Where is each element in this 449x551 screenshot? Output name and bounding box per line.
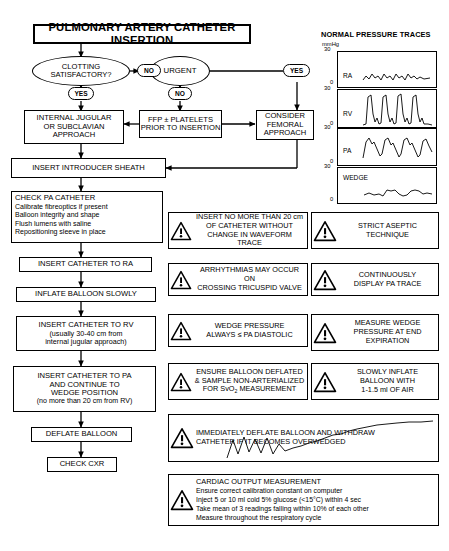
ra-axis-max: 30 bbox=[324, 46, 330, 52]
warning-triangle-icon bbox=[170, 372, 192, 392]
warning-wedge-pressure: WEDGE PRESSURE ALWAYS ≤ PA DIASTOLIC bbox=[168, 314, 308, 347]
cardiac-output-heading: CARDIAC OUTPUT MEASUREMENT bbox=[196, 477, 436, 487]
pressure-traces-title: NORMAL PRESSURE TRACES bbox=[321, 30, 449, 39]
svo2-line: FOR SvO2 MEASUREMENT bbox=[203, 384, 296, 393]
trace-waveform-pa bbox=[362, 132, 434, 164]
warning-triangle-icon bbox=[170, 427, 194, 449]
edge-label-clotting-no: NO bbox=[137, 64, 161, 77]
trace-waveform-ra bbox=[362, 54, 434, 87]
decision-clotting: CLOTTING SATISFACTORY? bbox=[32, 56, 130, 86]
flow-box-insert-introducer-sheath: INSERT INTRODUCER SHEATH bbox=[11, 158, 166, 178]
warning-insert-no-more-20cm: INSERT NO MORE THAN 20 cm OF CATHETER WI… bbox=[168, 212, 308, 249]
trace-label-ra: RA bbox=[343, 72, 352, 79]
check-pa-catheter-box: CHECK PA CATHETER Calibrate fibreoptics … bbox=[11, 191, 163, 243]
trace-waveform-wedge bbox=[362, 182, 434, 202]
flow-box-consider-femoral: CONSIDER FEMORAL APPROACH bbox=[256, 110, 314, 140]
warning-triangle-icon bbox=[313, 322, 337, 344]
warning-strict-aseptic: STRICT ASEPTIC TECHNIQUE bbox=[311, 212, 439, 249]
flow-box-internal-jugular: INTERNAL JUGULAR OR SUBCLAVIAN APPROACH bbox=[24, 110, 124, 144]
warning-triangle-icon bbox=[170, 321, 192, 341]
trace-panel-ra: RA bbox=[337, 51, 437, 88]
warning-slowly-inflate-balloon: SLOWLY INFLATE BALLOON WITH 1-1.5 ml OF … bbox=[311, 363, 439, 400]
warning-immediately-deflate-overwedge: IMMEDIATELY DEFLATE BALLOON AND WITHDRAW… bbox=[168, 414, 439, 462]
flow-box-insert-catheter-rv: INSERT CATHETER TO RV (usually 30-40 cm … bbox=[16, 316, 156, 351]
ra-axis-min: 0 bbox=[330, 79, 333, 85]
pa-axis-min: 0 bbox=[330, 158, 333, 164]
trace-panel-wedge: WEDGE bbox=[337, 167, 437, 204]
warning-triangle-icon bbox=[313, 371, 337, 393]
trace-label-wedge: WEDGE bbox=[343, 174, 368, 181]
warning-triangle-icon bbox=[170, 221, 192, 241]
flow-box-insert-catheter-ra: INSERT CATHETER TO RA bbox=[19, 257, 152, 272]
wedge-axis-max: 30 bbox=[324, 163, 330, 169]
edge-label-clotting-yes: YES bbox=[68, 87, 94, 100]
trace-waveform-rv bbox=[362, 92, 434, 127]
trace-panel-pa: PA bbox=[337, 128, 437, 166]
cardiac-output-box: CARDIAC OUTPUT MEASUREMENT Ensure correc… bbox=[168, 474, 439, 526]
warning-continuously-display-pa: CONTINUOUSLY DISPLAY PA TRACE bbox=[311, 263, 439, 296]
edge-label-urgent-yes: YES bbox=[283, 64, 310, 77]
trace-label-rv: RV bbox=[343, 110, 352, 117]
warning-ensure-balloon-deflated: ENSURE BALLOON DEFLATED & SAMPLE NON-ART… bbox=[168, 363, 308, 400]
wedge-axis-min: 0 bbox=[330, 196, 333, 202]
trace-panel-rv: RV bbox=[337, 89, 437, 128]
decision-urgent-label: URGENT bbox=[164, 67, 197, 76]
trace-label-pa: PA bbox=[343, 147, 351, 154]
warning-triangle-icon bbox=[170, 270, 192, 290]
flow-box-insert-catheter-pa: INSERT CATHETER TO PA AND CONTINUE TO WE… bbox=[13, 366, 156, 412]
warning-arrhythmias: ARRHYTHMIAS MAY OCCUR ON CROSSING TRICUS… bbox=[168, 263, 308, 296]
flow-box-ffp-platelets: FFP ± PLATELETS PRIOR TO INSERTION bbox=[139, 110, 222, 138]
warning-triangle-icon bbox=[170, 489, 194, 511]
pa-axis-max: 30 bbox=[324, 124, 330, 130]
check-pa-catheter-heading: CHECK PA CATHETER bbox=[15, 194, 108, 203]
rv-axis-min: 0 bbox=[330, 120, 333, 126]
flow-box-check-cxr: CHECK CXR bbox=[47, 457, 117, 472]
diagram-canvas: PULMONARY ARTERY CATHETER INSERTION bbox=[0, 0, 449, 551]
flow-box-inflate-balloon-slowly: INFLATE BALLOON SLOWLY bbox=[16, 287, 156, 302]
warning-triangle-icon bbox=[313, 269, 337, 291]
warning-triangle-icon bbox=[313, 220, 337, 242]
rv-axis-max: 30 bbox=[324, 85, 330, 91]
flow-box-deflate-balloon: DEFLATE BALLOON bbox=[31, 427, 132, 442]
decision-clotting-line2: SATISFACTORY? bbox=[50, 70, 111, 79]
edge-label-urgent-no: NO bbox=[168, 87, 192, 100]
warning-measure-wedge-end-expiration: MEASURE WEDGE PRESSURE AT END EXPIRATION bbox=[311, 314, 439, 351]
